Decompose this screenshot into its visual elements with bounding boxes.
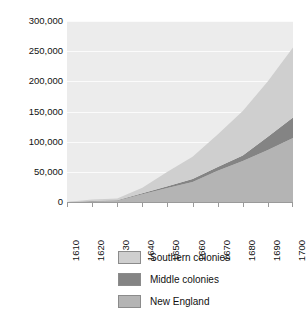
legend-item[interactable]: Middle colonies — [118, 272, 288, 287]
series-areas — [67, 21, 293, 202]
legend-item[interactable]: New England — [118, 294, 288, 309]
legend-item-label: New England — [150, 296, 209, 307]
legend-color-swatch — [118, 273, 141, 286]
population-area-chart: 050,000100,000150,000200,000250,000300,0… — [0, 0, 306, 325]
legend: Southern coloniesMiddle coloniesNew Engl… — [118, 250, 288, 316]
x-axis-tick-label: 1700 — [297, 240, 306, 261]
x-axis-tick-mark — [117, 202, 118, 207]
x-axis-tick-mark — [92, 202, 93, 207]
legend-color-swatch — [118, 295, 141, 308]
x-axis-tick-mark — [268, 202, 269, 207]
y-axis-tick-label: 100,000 — [29, 137, 63, 147]
y-axis-tick-label: 200,000 — [29, 76, 63, 86]
x-axis: 1610162016301640165016601670168016901700 — [0, 208, 306, 242]
x-axis-tick-label: 1620 — [96, 240, 106, 261]
y-axis-tick-label: 150,000 — [29, 107, 63, 117]
x-axis-tick-mark — [167, 202, 168, 207]
x-axis-tick-mark — [292, 202, 293, 207]
x-axis-tick-mark — [218, 202, 219, 207]
legend-item-label: Middle colonies — [150, 274, 219, 285]
legend-color-swatch — [118, 251, 141, 264]
x-axis-tick-mark — [67, 202, 68, 207]
x-axis-tick-mark — [193, 202, 194, 207]
x-axis-tick-mark — [243, 202, 244, 207]
footer-text-fragment — [46, 321, 166, 325]
y-axis-tick-label: 50,000 — [34, 167, 63, 177]
y-axis: 050,000100,000150,000200,000250,000300,0… — [0, 0, 63, 210]
x-axis-tick-label: 1610 — [71, 240, 81, 261]
y-axis-tick-label: 250,000 — [29, 46, 63, 56]
plot-area — [67, 21, 293, 202]
y-axis-tick-label: 300,000 — [29, 16, 63, 26]
x-axis-tick-mark — [142, 202, 143, 207]
legend-item[interactable]: Southern colonies — [118, 250, 288, 265]
legend-item-label: Southern colonies — [150, 252, 230, 263]
